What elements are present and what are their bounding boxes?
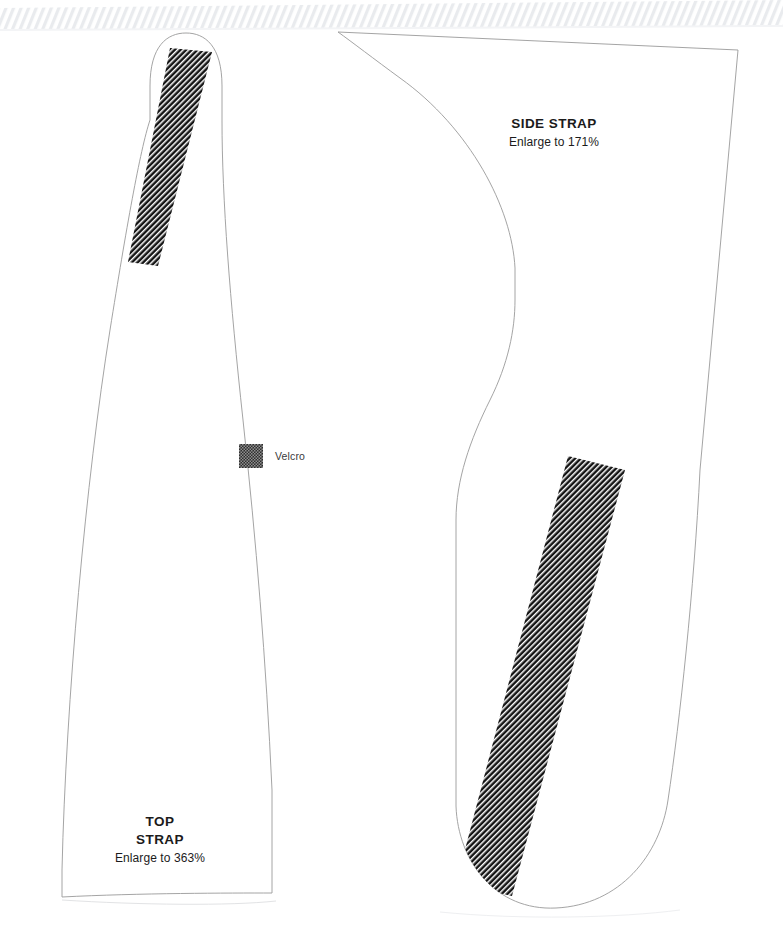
side-strap-subtitle: Enlarge to 171% [449,135,659,151]
pattern-piece-side-strap [338,32,738,908]
top-strap-title-line1: TOP [60,813,260,831]
side-strap-label-block: SIDE STRAP Enlarge to 171% [449,115,659,151]
velcro-swatch-icon [239,444,263,468]
cut-edge-hatching [0,0,783,30]
legend-label: Velcro [275,450,305,462]
top-strap-title-line2: STRAP [60,831,260,849]
legend: Velcro [239,444,305,468]
pattern-sheet: SIDE STRAP Enlarge to 171% TOP STRAP Enl… [0,0,783,927]
side-strap-title: SIDE STRAP [449,115,659,133]
top-strap-subtitle: Enlarge to 363% [60,851,260,867]
pattern-canvas [0,0,783,927]
top-strap-label-block: TOP STRAP Enlarge to 363% [60,813,260,866]
